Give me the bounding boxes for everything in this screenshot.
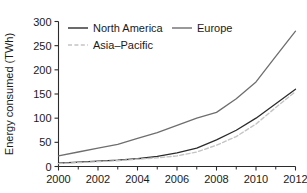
y-tick-label: 100 [33, 112, 51, 124]
legend-label-asia-pacific: Asia–Pacific [93, 39, 153, 51]
y-axis-title: Energy consumed (TWh) [3, 33, 15, 155]
x-tick-label: 2002 [86, 173, 110, 185]
y-tick-label: 50 [39, 136, 51, 148]
series-line-north-america [59, 89, 296, 163]
x-tick-label: 2012 [283, 173, 307, 185]
legend-label-europe: Europe [197, 22, 232, 34]
x-tick-label: 2004 [125, 173, 149, 185]
legend-label-north-america: North America [93, 22, 164, 34]
y-tick-label: 200 [33, 64, 51, 76]
line-chart: 050100150200250300 200020022004200620082… [0, 0, 307, 193]
x-tick-label: 2008 [204, 173, 228, 185]
x-axis-ticks [59, 167, 296, 171]
chart-figure: 050100150200250300 200020022004200620082… [0, 0, 307, 193]
chart-legend: North AmericaEuropeAsia–Pacific [68, 22, 232, 51]
x-axis-tick-labels: 2000200220042006200820102012 [46, 173, 307, 185]
y-tick-label: 0 [45, 161, 51, 173]
data-series-group [59, 31, 296, 163]
x-tick-label: 2010 [244, 173, 268, 185]
y-tick-label: 250 [33, 40, 51, 52]
y-tick-label: 150 [33, 88, 51, 100]
x-tick-label: 2000 [46, 173, 70, 185]
x-tick-label: 2006 [165, 173, 189, 185]
y-axis-ticks [55, 22, 59, 167]
y-axis-tick-labels: 050100150200250300 [33, 16, 51, 173]
y-tick-label: 300 [33, 16, 51, 28]
